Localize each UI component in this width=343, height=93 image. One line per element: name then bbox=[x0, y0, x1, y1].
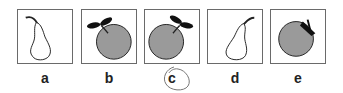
option-d-label: d bbox=[207, 70, 263, 86]
option-e[interactable] bbox=[270, 9, 326, 64]
selection-circle-mark bbox=[160, 64, 194, 93]
pear-icon bbox=[208, 10, 262, 63]
pear-icon bbox=[18, 10, 72, 63]
option-c[interactable] bbox=[144, 9, 200, 64]
option-a-label: a bbox=[17, 70, 73, 86]
fruit-icon bbox=[82, 10, 136, 63]
option-d[interactable] bbox=[207, 9, 263, 64]
option-b-label: b bbox=[81, 70, 137, 86]
option-e-label: e bbox=[270, 70, 326, 86]
fruit-icon bbox=[145, 10, 199, 63]
option-a[interactable] bbox=[17, 9, 73, 64]
fruit-icon bbox=[271, 10, 325, 63]
option-b[interactable] bbox=[81, 9, 137, 64]
